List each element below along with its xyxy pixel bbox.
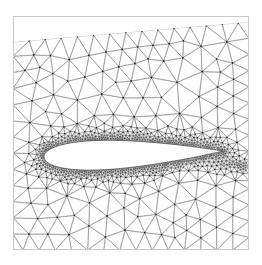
mesh-figure: [0, 0, 262, 265]
airfoil-mesh-canvas: [0, 0, 262, 265]
